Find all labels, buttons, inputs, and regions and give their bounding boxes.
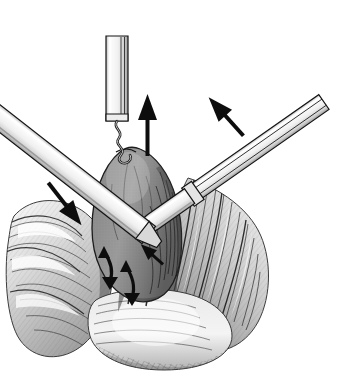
illustration-canvas	[0, 0, 344, 382]
surgical-illustration-figure: Laparoscopic retraction and blunt dissec…	[0, 0, 344, 382]
